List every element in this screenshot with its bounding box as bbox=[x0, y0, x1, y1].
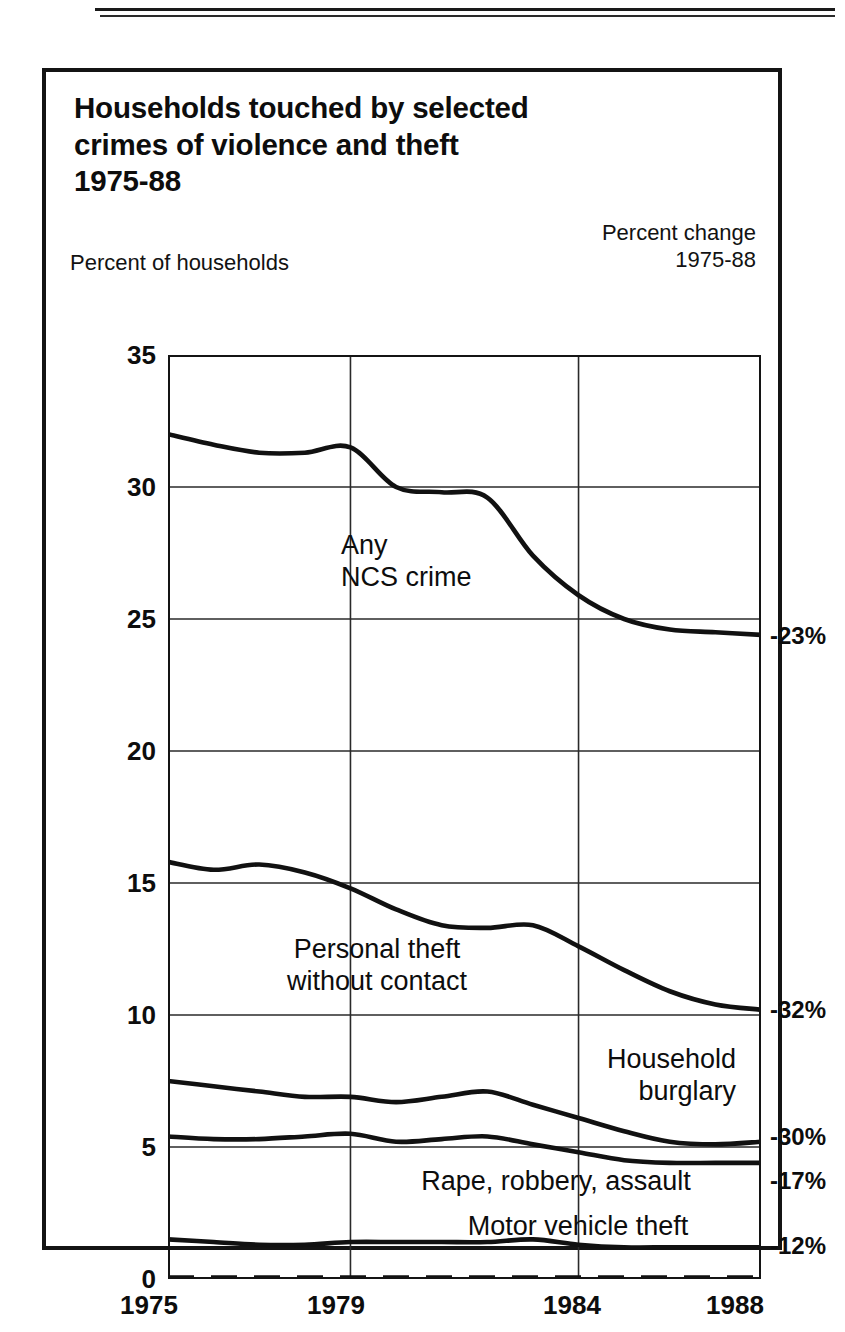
page-top-rule-secondary bbox=[100, 15, 835, 17]
y-tick-15: 15 bbox=[127, 868, 156, 899]
page-top-rule bbox=[95, 8, 835, 11]
x-tick-1984: 1984 bbox=[543, 1290, 601, 1321]
y-tick-5: 5 bbox=[142, 1132, 156, 1163]
chart-canvas bbox=[168, 355, 761, 1279]
percent-change-personal-theft: -32% bbox=[770, 996, 826, 1024]
x-tick-1988: 1988 bbox=[706, 1290, 764, 1321]
series-line bbox=[168, 1134, 761, 1163]
y-tick-25: 25 bbox=[127, 604, 156, 635]
percent-change-rape-robbery-assault: -17% bbox=[770, 1167, 826, 1195]
chart-title: Households touched by selected crimes of… bbox=[74, 90, 714, 200]
series-label-household-burglary: Household burglary bbox=[488, 1043, 736, 1108]
percent-change-any-ncs-crime: -23% bbox=[770, 622, 826, 650]
y-tick-20: 20 bbox=[127, 736, 156, 767]
plot-area: 35 30 25 20 15 10 5 0 1975 1979 1984 198… bbox=[168, 355, 761, 1279]
y-axis-caption: Percent of households bbox=[70, 250, 289, 276]
percent-change-household-burglary: -30% bbox=[770, 1123, 826, 1151]
x-tick-1975: 1975 bbox=[120, 1290, 178, 1321]
x-tick-1979: 1979 bbox=[307, 1290, 365, 1321]
series-label-motor-vehicle-theft: Motor vehicle theft bbox=[428, 1210, 728, 1242]
percent-change-motor-vehicle-theft: -12% bbox=[770, 1232, 826, 1260]
y-tick-10: 10 bbox=[127, 1000, 156, 1031]
series-label-any-ncs-crime: Any NCS crime bbox=[341, 529, 472, 594]
y-tick-35: 35 bbox=[127, 340, 156, 371]
figure-container: Households touched by selected crimes of… bbox=[42, 68, 782, 1250]
y-tick-30: 30 bbox=[127, 472, 156, 503]
series-label-rape-robbery-assault: Rape, robbery, assault bbox=[381, 1165, 731, 1197]
series-label-personal-theft: Personal theft without contact bbox=[232, 933, 522, 998]
percent-change-caption: Percent change 1975-88 bbox=[602, 220, 756, 274]
